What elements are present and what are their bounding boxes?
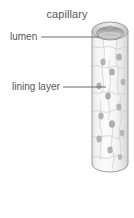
cell-nucleus: [107, 147, 112, 154]
cell-nucleus: [96, 136, 101, 143]
cell-nucleus: [109, 68, 115, 75]
rim-cell-nucleus: [107, 25, 113, 29]
cell-nucleus: [96, 83, 101, 90]
cell-nucleus: [98, 113, 103, 120]
cell-nucleus: [116, 53, 122, 60]
cell-nucleus: [109, 120, 115, 128]
cell-nucleus: [100, 59, 105, 66]
capillary-tube: [92, 31, 128, 172]
label-lumen: lumen: [10, 31, 37, 42]
label-lining-layer: lining layer: [12, 81, 60, 92]
capillary-diagram: capillary: [0, 0, 134, 218]
cell-nucleus: [120, 130, 125, 136]
cell-nucleus: [118, 154, 122, 160]
cell-nucleus: [105, 92, 111, 99]
cell-nucleus: [116, 104, 121, 111]
cell-nucleus: [121, 79, 126, 85]
